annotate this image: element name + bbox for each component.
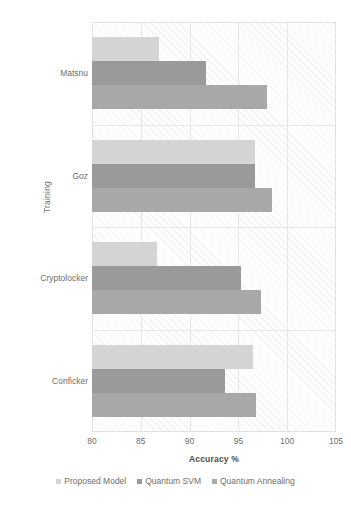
bar-conficker-quantum-annealing — [92, 393, 256, 417]
bar-goz-quantum-svm — [92, 164, 255, 188]
y-axis-tick-goz: Goz — [4, 171, 88, 181]
bar-matsnu-quantum-svm — [92, 61, 206, 85]
x-axis-tick-85: 85 — [136, 436, 145, 446]
x-axis-title: Accuracy % — [92, 454, 336, 464]
legend-label: Proposed Model — [64, 476, 126, 486]
chart-legend: Proposed ModelQuantum SVMQuantum Anneali… — [0, 476, 351, 486]
bar-cryptolocker-quantum-annealing — [92, 290, 261, 314]
legend-label: Quantum SVM — [145, 476, 201, 486]
legend-item-quantum-svm[interactable]: Quantum SVM — [137, 476, 201, 486]
legend-swatch-icon — [137, 479, 142, 484]
legend-swatch-icon — [56, 479, 61, 484]
plot-border-top — [92, 22, 336, 23]
y-gridline — [92, 330, 336, 331]
y-axis-tick-cryptolocker: Cryptolocker — [4, 273, 88, 283]
bar-chart: Training MatsnuGozCryptolockerConficker … — [0, 0, 351, 505]
legend-swatch-icon — [212, 479, 217, 484]
bar-cryptolocker-proposed-model — [92, 242, 157, 266]
plot-border-bottom — [92, 431, 336, 432]
bar-matsnu-proposed-model — [92, 37, 159, 61]
bar-goz-quantum-annealing — [92, 188, 272, 212]
y-axis-tick-conficker: Conficker — [4, 376, 88, 386]
y-gridline — [92, 125, 336, 126]
x-axis-tick-95: 95 — [234, 436, 243, 446]
bar-goz-proposed-model — [92, 140, 255, 164]
y-axis-tick-labels: MatsnuGozCryptolockerConficker — [0, 0, 88, 505]
x-axis-tick-80: 80 — [87, 436, 96, 446]
y-axis-tick-matsnu: Matsnu — [4, 68, 88, 78]
bar-matsnu-quantum-annealing — [92, 85, 267, 109]
y-gridline — [92, 227, 336, 228]
plot-area — [92, 22, 336, 432]
x-axis-tick-100: 100 — [280, 436, 294, 446]
x-axis-tick-90: 90 — [185, 436, 194, 446]
bar-cryptolocker-quantum-svm — [92, 266, 241, 290]
legend-label: Quantum Annealing — [220, 476, 295, 486]
bar-conficker-proposed-model — [92, 345, 253, 369]
legend-item-proposed-model[interactable]: Proposed Model — [56, 476, 126, 486]
x-axis-tick-105: 105 — [329, 436, 343, 446]
bar-conficker-quantum-svm — [92, 369, 225, 393]
legend-item-quantum-annealing[interactable]: Quantum Annealing — [212, 476, 295, 486]
